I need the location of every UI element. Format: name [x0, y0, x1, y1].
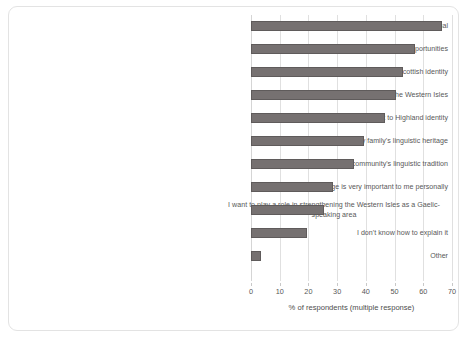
tick-label: 40 — [354, 287, 378, 296]
bar-track — [251, 107, 452, 130]
x-axis-ticks: 010203040506070 — [251, 283, 452, 297]
bar-track — [251, 222, 452, 245]
tick-mark-30 — [337, 283, 338, 286]
bar — [251, 251, 261, 261]
bar-track — [251, 199, 452, 222]
tick-label: 60 — [411, 287, 435, 296]
tick-mark-50 — [395, 283, 396, 286]
bar-row: Having Gaelic improves my employment opp… — [9, 38, 452, 61]
bar-row: I don't know how to explain it — [9, 222, 452, 245]
bar-row: Other — [9, 245, 452, 268]
bar — [251, 182, 333, 192]
bar-track — [251, 38, 452, 61]
bar — [251, 205, 324, 215]
tick-label: 10 — [268, 287, 292, 296]
chart-plot-area: There are advantages to being bilingualH… — [9, 7, 460, 332]
bar-row: There are advantages to being bilingual — [9, 15, 452, 38]
tick-label: 30 — [325, 287, 349, 296]
bar — [251, 228, 307, 238]
x-axis-title: % of respondents (multiple response) — [251, 303, 452, 312]
chart-frame: There are advantages to being bilingualH… — [8, 6, 459, 331]
tick-mark-60 — [423, 283, 424, 286]
bar-row: I am committed to my family's linguistic… — [9, 130, 452, 153]
gridline-70 — [452, 15, 453, 281]
bar — [251, 159, 354, 169]
bar-track — [251, 15, 452, 38]
bar — [251, 21, 442, 31]
bar-track — [251, 130, 452, 153]
tick-mark-10 — [280, 283, 281, 286]
bar-row: I want to play a role in strengthening t… — [9, 199, 452, 222]
tick-mark-0 — [251, 283, 252, 286]
bar-row: I am committed to my community's linguis… — [9, 153, 452, 176]
bar — [251, 44, 415, 54]
bar-track — [251, 153, 452, 176]
tick-label: 70 — [440, 287, 464, 296]
tick-mark-40 — [366, 283, 367, 286]
bar-row: The Gaelic language is very important to… — [9, 176, 452, 199]
bar-track — [251, 245, 452, 268]
tick-mark-20 — [308, 283, 309, 286]
tick-mark-70 — [452, 283, 453, 286]
tick-label: 50 — [383, 287, 407, 296]
bar-row: Gaelic is important to the economy of th… — [9, 84, 452, 107]
bar — [251, 90, 396, 100]
bar — [251, 113, 385, 123]
bar-row: The Gaelic language is very important to… — [9, 61, 452, 84]
bar-track — [251, 176, 452, 199]
bar-track — [251, 61, 452, 84]
tick-label: 20 — [296, 287, 320, 296]
tick-label: 0 — [239, 287, 263, 296]
bar — [251, 136, 364, 146]
bar-row: The Gaelic language is very important to… — [9, 107, 452, 130]
bar-track — [251, 84, 452, 107]
bar — [251, 67, 403, 77]
